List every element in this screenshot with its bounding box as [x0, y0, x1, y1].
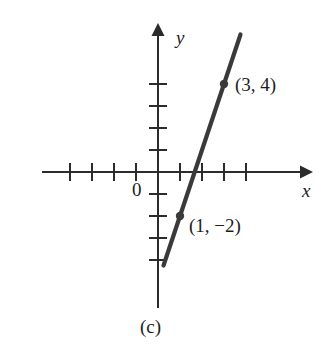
y-axis-label: y — [174, 27, 185, 48]
origin-label: 0 — [132, 179, 142, 200]
data-point-1-neg2 — [176, 212, 184, 220]
graph-figure: y x 0 (3, 4) (1, −2) (c) — [0, 0, 326, 354]
point-label-1-neg2: (1, −2) — [189, 215, 241, 237]
x-axis-label: x — [301, 180, 311, 201]
y-axis-arrow-icon — [152, 23, 165, 36]
figure-caption: (c) — [140, 316, 161, 338]
data-point-3-4 — [220, 80, 228, 88]
coordinate-plane-svg: y x 0 (3, 4) (1, −2) (c) — [0, 0, 326, 354]
x-axis-arrow-icon — [300, 166, 313, 179]
point-label-3-4: (3, 4) — [235, 74, 276, 96]
